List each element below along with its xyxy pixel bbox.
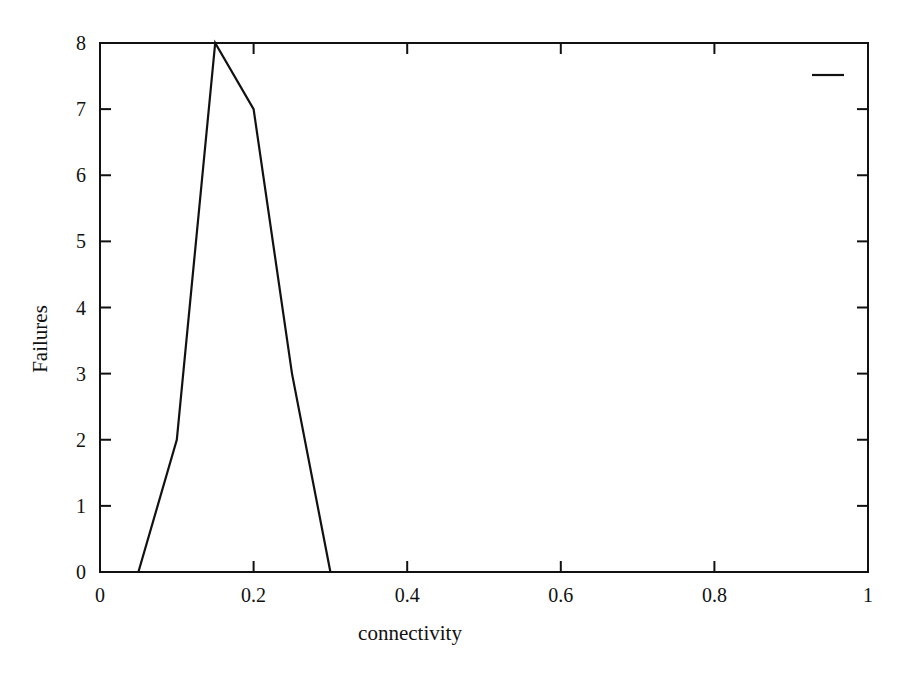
y-axis-ticks: 012345678	[76, 32, 868, 583]
y-axis-title: Failures	[28, 305, 52, 373]
x-tick-label: 1	[863, 584, 873, 606]
plot-frame	[100, 43, 868, 572]
y-tick-label: 8	[76, 32, 86, 54]
x-axis-ticks: 00.20.40.60.81	[95, 43, 873, 606]
y-tick-label: 7	[76, 98, 86, 120]
y-tick-label: 3	[76, 363, 86, 385]
x-tick-label: 0.2	[241, 584, 266, 606]
y-tick-label: 1	[76, 495, 86, 517]
x-axis-title: connectivity	[358, 621, 462, 645]
x-tick-label: 0.4	[395, 584, 420, 606]
y-tick-label: 0	[76, 561, 86, 583]
x-tick-label: 0.6	[548, 584, 573, 606]
y-tick-label: 6	[76, 164, 86, 186]
data-series-line	[138, 43, 330, 572]
y-tick-label: 4	[76, 297, 86, 319]
y-tick-label: 2	[76, 429, 86, 451]
x-tick-label: 0.8	[702, 584, 727, 606]
y-tick-label: 5	[76, 230, 86, 252]
x-tick-label: 0	[95, 584, 105, 606]
failures-vs-connectivity-chart: 00.20.40.60.81 012345678 connectivity Fa…	[0, 0, 921, 674]
